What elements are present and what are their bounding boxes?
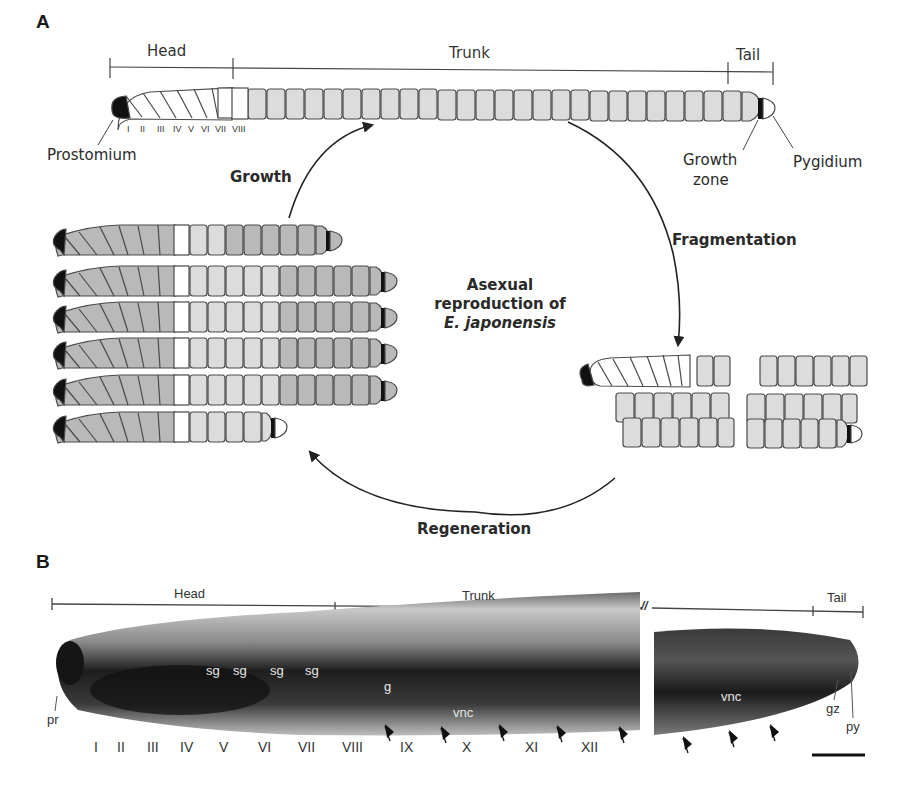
b-numeral-7: VII [298, 740, 315, 754]
regeneration-arrow [310, 452, 615, 515]
species-name: E. japonensis [444, 314, 556, 332]
top-worm [112, 88, 775, 130]
numeral-7: VII [215, 125, 226, 134]
regenerated-worm-long [53, 266, 397, 297]
prostomium-label: Prostomium [47, 148, 137, 163]
b-trunk-label: Trunk [462, 589, 495, 602]
regenerated-worm-long [53, 302, 397, 333]
numeral-8: VIII [232, 125, 246, 134]
regenerated-worm-short [53, 412, 287, 443]
panel-b-letter: B [36, 552, 50, 571]
a-tail-label: Tail [736, 48, 760, 63]
regeneration-label: Regeneration [417, 522, 531, 537]
b-numeral-8: VIII [342, 740, 363, 754]
sg-label-1: sg [206, 664, 220, 677]
numeral-2: II [140, 125, 145, 134]
b-head-label: Head [174, 587, 205, 600]
regenerated-worm-long [53, 338, 397, 369]
numeral-6: VI [201, 125, 210, 134]
fragments [580, 355, 867, 448]
py-label: py [846, 720, 860, 733]
vnc-label-1: vnc [453, 706, 473, 719]
a-trunk-label: Trunk [449, 46, 490, 61]
b-numeral-12: XII [581, 740, 598, 754]
b-numeral-3: III [147, 740, 159, 754]
g-label: g [384, 680, 391, 693]
sg-label-2: sg [233, 664, 247, 677]
sg-label-3: sg [270, 664, 284, 677]
panel-a-scale-bar [110, 58, 773, 85]
numeral-5: V [188, 125, 194, 134]
growth-arrow [289, 125, 372, 218]
regenerated-worm-long [53, 375, 397, 406]
numeral-3: III [157, 125, 165, 134]
b-numeral-2: II [117, 740, 125, 754]
a-head-label: Head [147, 44, 186, 59]
pr-label: pr [47, 713, 59, 726]
b-numeral-10: X [462, 740, 471, 754]
b-numeral-1: I [94, 740, 98, 754]
diagram-canvas [0, 0, 922, 804]
b-numeral-11: XI [525, 740, 538, 754]
center-title-line1: Asexual [415, 276, 585, 295]
micrograph-anterior [56, 592, 640, 735]
b-numeral-5: V [219, 740, 228, 754]
b-numeral-4: IV [180, 740, 193, 754]
center-title-line2: reproduction of [415, 295, 585, 314]
growth-zone-label-2: zone [693, 173, 729, 188]
center-title: Asexual reproduction of E. japonensis [415, 276, 585, 333]
numeral-4: IV [173, 125, 182, 134]
break-mark: // [641, 600, 648, 612]
b-numeral-9: IX [400, 740, 413, 754]
growth-zone-label-1: Growth [683, 153, 737, 168]
pygidium-label: Pygidium [793, 155, 862, 170]
fragmentation-label: Fragmentation [672, 233, 797, 248]
gz-label: gz [826, 702, 840, 715]
b-tail-label: Tail [827, 591, 847, 604]
b-numeral-6: VI [258, 740, 271, 754]
regenerated-worms [53, 225, 342, 256]
growth-label: Growth [230, 170, 292, 185]
sg-label-4: sg [305, 664, 319, 677]
vnc-label-2: vnc [721, 690, 741, 703]
micrograph-posterior [654, 628, 859, 735]
numeral-1: I [127, 125, 130, 134]
